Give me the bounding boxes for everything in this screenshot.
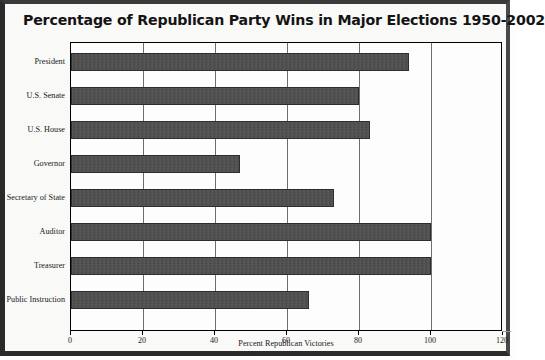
y-axis-label: U.S. House bbox=[0, 125, 65, 134]
gridline-80 bbox=[359, 43, 360, 330]
bar bbox=[71, 257, 431, 275]
y-axis-label: Auditor bbox=[0, 227, 65, 236]
y-axis-label: U.S. Senate bbox=[0, 91, 65, 100]
plot-area bbox=[70, 42, 502, 331]
y-axis-label: Public Instruction bbox=[0, 295, 65, 304]
bar bbox=[71, 291, 309, 309]
x-axis-title: Percent Republican Victories bbox=[70, 339, 502, 348]
bar bbox=[71, 223, 431, 241]
baseline-extension bbox=[502, 331, 511, 332]
y-axis-label: Treasurer bbox=[0, 261, 65, 270]
x-tick-mark-100 bbox=[430, 331, 431, 335]
x-tick-mark-80 bbox=[358, 331, 359, 335]
x-tick-mark-0 bbox=[70, 331, 71, 335]
bar bbox=[71, 87, 359, 105]
page-title: Percentage of Republican Party Wins in M… bbox=[23, 12, 499, 28]
y-axis-label: President bbox=[0, 57, 65, 66]
gridline-100 bbox=[431, 43, 432, 330]
y-axis-label: Secretary of State bbox=[0, 193, 65, 202]
bar bbox=[71, 121, 370, 139]
x-tick-mark-60 bbox=[286, 331, 287, 335]
bar bbox=[71, 155, 240, 173]
y-axis-category-labels: PresidentU.S. SenateU.S. HouseGovernorSe… bbox=[0, 42, 70, 331]
bar bbox=[71, 189, 334, 207]
x-tick-mark-20 bbox=[142, 331, 143, 335]
bar bbox=[71, 53, 409, 71]
x-tick-mark-40 bbox=[214, 331, 215, 335]
y-axis-label: Governor bbox=[0, 159, 65, 168]
